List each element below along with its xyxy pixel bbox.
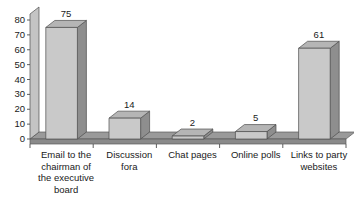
x-category-label: board (54, 184, 78, 195)
bar-side-face (330, 41, 339, 139)
bar[interactable] (109, 111, 150, 139)
x-category-label: chairman of (41, 161, 91, 172)
bar-value-label: 61 (314, 29, 325, 40)
x-tick-group (30, 144, 346, 148)
y-axis-wall (30, 7, 39, 139)
bar-front-face (109, 118, 141, 139)
floor-front-face (30, 139, 346, 144)
chart-canvas: 0102030405060708075142561Email to thecha… (0, 0, 354, 201)
x-category-labels: Email to thechairman ofthe executiveboar… (38, 149, 347, 195)
x-category-label: Online polls (231, 149, 281, 160)
x-category-label: Discussion (106, 149, 152, 160)
x-category-label: websites (299, 161, 337, 172)
bar-front-face (172, 136, 204, 139)
bar-front-face (235, 132, 267, 139)
y-tick-group: 01020304050607080 (14, 14, 30, 144)
bar-value-label: 75 (61, 8, 72, 19)
bar-front-face (46, 27, 78, 139)
y-tick-label: 20 (14, 103, 25, 114)
bar-chart: 0102030405060708075142561Email to thecha… (0, 0, 354, 201)
y-axis (30, 7, 39, 139)
y-tick-label: 30 (14, 88, 25, 99)
x-category-label: Email to the (41, 149, 91, 160)
y-tick-label: 10 (14, 118, 25, 129)
bar-side-face (77, 20, 86, 139)
y-tick-label: 60 (14, 44, 25, 55)
bar-value-label: 2 (190, 117, 195, 128)
bar[interactable] (299, 41, 340, 139)
y-tick-label: 50 (14, 59, 25, 70)
x-category-label: the executive (38, 172, 94, 183)
bar-value-label: 14 (124, 99, 135, 110)
y-tick-label: 40 (14, 74, 25, 85)
y-tick-label: 70 (14, 29, 25, 40)
bars-group: 75142561 (46, 8, 339, 139)
bar[interactable] (235, 125, 276, 139)
y-tick-label: 0 (20, 133, 25, 144)
bar-value-label: 5 (253, 112, 258, 123)
y-tick-label: 80 (14, 14, 25, 25)
x-category-label: Links to party (291, 149, 348, 160)
x-category-label: Chat pages (168, 149, 217, 160)
bar-front-face (299, 48, 331, 139)
x-category-label: fora (121, 161, 138, 172)
bar[interactable] (46, 20, 87, 139)
